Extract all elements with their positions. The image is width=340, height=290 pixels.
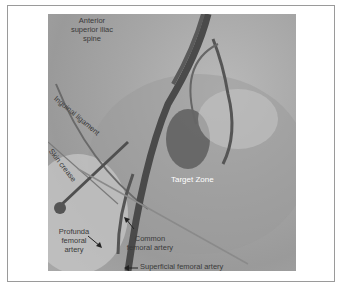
label-superficial-femoral-artery: Superficial femoral artery — [140, 262, 223, 271]
label-asis: Anterior superior iliac spine — [62, 16, 122, 43]
label-common-femoral-artery: Common femoral artery — [120, 234, 180, 252]
label-target-zone: Target Zone — [171, 175, 214, 184]
angiography-image: Anterior superior iliac spine Inguinal l… — [48, 14, 296, 271]
label-profunda-femoral-artery: Profunda femoral artery — [54, 227, 94, 254]
